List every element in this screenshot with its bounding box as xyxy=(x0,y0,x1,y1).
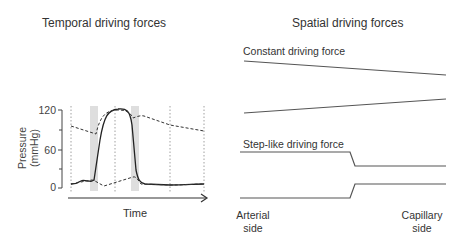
time-arrow xyxy=(68,194,207,202)
diagram-graphics xyxy=(0,0,461,243)
constant-force-line-lower xyxy=(244,99,446,113)
y-axis xyxy=(58,110,62,188)
step-force-line-lower xyxy=(240,184,446,198)
step-force-line-upper xyxy=(240,152,446,166)
constant-force-line-upper xyxy=(244,61,446,75)
